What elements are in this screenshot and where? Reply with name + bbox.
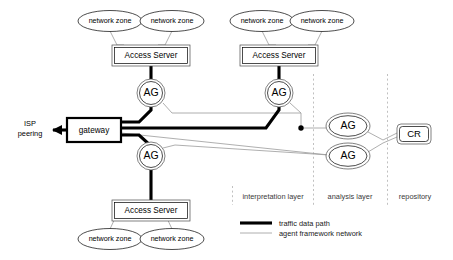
link-nz4-to-as2 bbox=[308, 31, 322, 45]
network-junction-dot bbox=[298, 125, 303, 130]
access-server-label: Access Server bbox=[253, 51, 306, 60]
layer-label-interpretation: interpretation layer bbox=[242, 192, 304, 201]
network-zone-node-2[interactable]: network zone bbox=[140, 11, 204, 32]
network-zone-label: network zone bbox=[301, 16, 344, 25]
network-zone-node-5[interactable]: network zone bbox=[78, 229, 142, 250]
isp-peering-label-line1: ISP bbox=[24, 119, 36, 128]
isp-peering-label-line2: peering bbox=[18, 129, 43, 138]
legend: traffic data path agent framework networ… bbox=[240, 219, 362, 238]
legend-label-agent-framework-network: agent framework network bbox=[279, 229, 362, 238]
network-zone-node-4[interactable]: network zone bbox=[290, 11, 354, 32]
agent-label: AG bbox=[271, 86, 286, 98]
agent-label: AG bbox=[340, 149, 355, 161]
gateway-node[interactable]: gateway bbox=[67, 118, 121, 142]
network-zone-label: network zone bbox=[241, 16, 284, 25]
isp-arrow-icon bbox=[52, 125, 62, 135]
layer-label-analysis: analysis layer bbox=[328, 192, 373, 201]
network-zone-node-1[interactable]: network zone bbox=[78, 11, 142, 32]
access-server-node-2[interactable]: Access Server bbox=[240, 45, 318, 66]
agent-label: AG bbox=[143, 86, 158, 98]
agent-node-5[interactable]: AG bbox=[326, 143, 370, 169]
gateway-label: gateway bbox=[79, 126, 110, 135]
network-zone-label: network zone bbox=[151, 234, 194, 243]
link-nz2-to-as1 bbox=[158, 31, 172, 45]
link-nz1-to-as1 bbox=[110, 31, 124, 45]
link-ag2-to-junction bbox=[290, 103, 301, 128]
agent-node-1[interactable]: AG bbox=[137, 79, 165, 107]
access-server-label: Access Server bbox=[125, 206, 178, 215]
layer-label-repository: repository bbox=[399, 192, 432, 201]
agent-node-3[interactable]: AG bbox=[137, 142, 165, 170]
network-zone-label: network zone bbox=[89, 234, 132, 243]
network-zone-node-6[interactable]: network zone bbox=[140, 229, 204, 250]
agent-node-4[interactable]: AG bbox=[326, 113, 370, 139]
diagram-canvas: network zone network zone network zone n… bbox=[0, 0, 453, 260]
legend-label-traffic-data-path: traffic data path bbox=[279, 219, 330, 228]
agent-label: AG bbox=[340, 119, 355, 131]
access-server-node-3[interactable]: Access Server bbox=[112, 200, 190, 221]
link-ag1-to-gateway-traffic bbox=[120, 104, 151, 122]
network-diagram: network zone network zone network zone n… bbox=[0, 0, 453, 260]
link-nz3-to-as2 bbox=[262, 31, 276, 45]
link-ag5-to-cr bbox=[368, 137, 397, 152]
network-zone-label: network zone bbox=[89, 16, 132, 25]
repository-label: CR bbox=[407, 128, 421, 139]
agent-label: AG bbox=[143, 149, 158, 161]
network-zone-label: network zone bbox=[151, 16, 194, 25]
repository-node-cr[interactable]: CR bbox=[397, 124, 431, 144]
access-server-label: Access Server bbox=[125, 51, 178, 60]
network-zone-node-3[interactable]: network zone bbox=[230, 11, 294, 32]
agent-node-2[interactable]: AG bbox=[265, 79, 293, 107]
access-server-node-1[interactable]: Access Server bbox=[112, 45, 190, 66]
